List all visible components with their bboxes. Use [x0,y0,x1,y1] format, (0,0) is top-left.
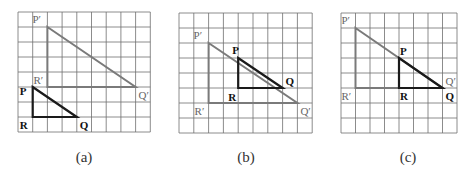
caption-b: (b) [237,149,255,166]
grid [18,12,150,132]
vertex-label-r: R [400,90,409,102]
vertex-label-p: P [20,85,27,97]
panel-a: P′Q′R′PQR [18,12,150,132]
vertex-label-q: Q [80,119,89,131]
panel-c: P′Q′R′PQR [341,13,457,133]
vertex-label-q: Q [446,90,455,102]
vertex-label-p: P [400,45,407,57]
similar-triangles-figure: P′Q′R′PQR P′Q′R′PQR P′Q′R′PQR [0,0,471,171]
vertex-label-r-prime: R′ [195,105,205,117]
vertex-label-r-prime: R′ [33,74,43,86]
vertex-label-p-prime: P′ [32,13,41,25]
object-triangle: PQR [399,45,455,102]
vertex-label-q: Q [286,75,295,87]
vertex-label-q-prime: Q′ [446,75,456,87]
vertex-label-r: R [20,119,29,131]
vertex-label-p-prime: P′ [342,14,351,26]
caption-a: (a) [76,149,93,166]
vertex-label-r-prime: R′ [342,90,352,102]
panel-b: P′Q′R′PQR [179,13,312,133]
vertex-label-q-prime: Q′ [139,89,149,101]
vertex-label-q-prime: Q′ [300,105,310,117]
caption-c: (c) [400,149,417,166]
vertex-label-r: R [228,91,237,103]
object-triangle: PQR [20,85,89,131]
vertex-label-p: P [232,44,239,56]
vertex-label-p-prime: P′ [194,29,203,41]
